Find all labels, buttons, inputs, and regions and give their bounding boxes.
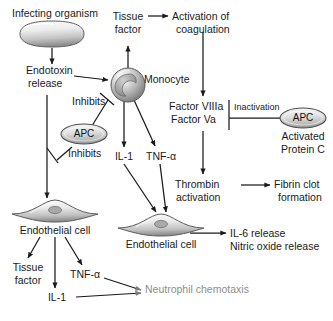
- edge-endothelial-to-tissuefactor: [28, 237, 40, 258]
- label-thrombin-activation-line1: Thrombin: [175, 178, 219, 191]
- label-neutrophil-chemotaxis: Neutrophil chemotaxis: [145, 283, 249, 296]
- label-activated-protein-c-line1: Activated: [281, 130, 324, 143]
- label-inhibits-upper: Inhibits: [72, 95, 105, 108]
- label-apc-left: APC: [74, 128, 95, 141]
- edge-endotoxin-to-monocyte: [74, 76, 108, 80]
- label-inhibits-lower: Inhibits: [68, 147, 101, 160]
- monocyte-cell: [111, 68, 145, 102]
- label-tissue-factor-bottom-line2: factor: [15, 274, 41, 287]
- label-inactivation: Inactivation: [234, 102, 280, 113]
- infecting-organism-bacillus: [20, 21, 84, 47]
- label-infecting-organism: Infecting organism: [12, 7, 98, 20]
- label-monocyte: Monocyte: [144, 73, 190, 86]
- label-apc-right: APC: [293, 112, 314, 125]
- label-endotoxin-release-line2: release: [28, 77, 62, 90]
- label-il6-release: IL-6 release: [230, 227, 285, 240]
- edge-tnfa-to-endothelial-mid: [160, 164, 166, 212]
- label-activation-coagulation-line1: Activation of: [172, 10, 229, 23]
- edge-monocyte-to-tnfa: [134, 100, 155, 146]
- label-factor-viiia: Factor VIIIa: [169, 100, 223, 113]
- endothelial-cell-left: [12, 200, 98, 222]
- label-tnfa-endothelial: TNF-α: [70, 268, 100, 281]
- edge-il1-to-chemotaxis: [76, 293, 141, 297]
- edge-tnfa-to-chemotaxis: [104, 278, 141, 290]
- label-tissue-factor-top-line2: factor: [115, 23, 141, 36]
- label-fibrin-clot-line2: formation: [278, 191, 322, 204]
- label-factor-va: Factor Va: [171, 113, 216, 126]
- edge-il1-to-endothelial-mid: [124, 164, 156, 212]
- label-nitric-oxide-release: Nitric oxide release: [230, 240, 319, 253]
- label-il1-endothelial: IL-1: [48, 291, 66, 304]
- label-tissue-factor-bottom-line1: Tissue: [13, 261, 44, 274]
- label-thrombin-activation-line2: activation: [176, 191, 220, 204]
- label-endothelial-cell-middle: Endothelial cell: [126, 238, 197, 251]
- label-endothelial-cell-left: Endothelial cell: [20, 224, 91, 237]
- edge-endothelial-to-tnfa: [65, 237, 82, 265]
- label-tissue-factor-top-line1: Tissue: [113, 10, 144, 23]
- edge-apc-inhibit-lower-bar: [47, 148, 58, 163]
- label-fibrin-clot-line1: Fibrin clot: [274, 178, 320, 191]
- diagram-canvas: Infecting organism Endotoxin release Inh…: [0, 0, 333, 321]
- label-endotoxin-release-line1: Endotoxin: [26, 64, 73, 77]
- label-activated-protein-c-line2: Protein C: [281, 143, 325, 156]
- label-activation-coagulation-line2: coagulation: [176, 23, 230, 36]
- label-il1-monocyte: IL-1: [115, 150, 133, 163]
- label-tnfa-monocyte: TNF-α: [146, 150, 176, 163]
